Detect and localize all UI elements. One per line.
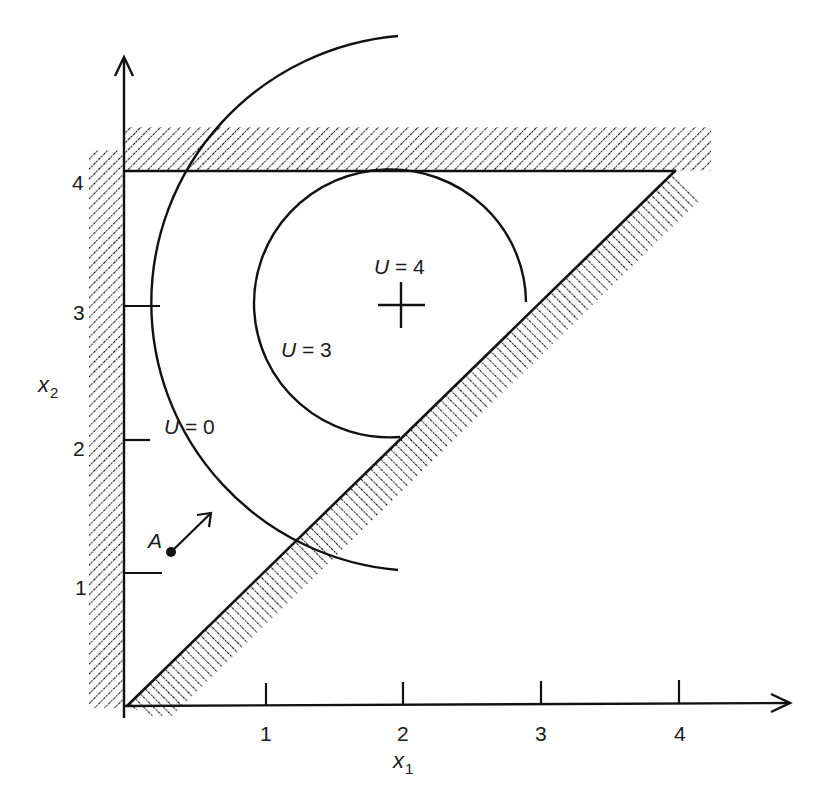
- label-u3: U = 3: [281, 339, 332, 360]
- x-tick-label-1: 1: [260, 723, 272, 744]
- x-tick-label-3: 3: [535, 723, 547, 744]
- y-tick-label-4: 4: [72, 172, 84, 193]
- y-tick-label-1: 1: [75, 577, 87, 598]
- x-axis: [124, 703, 789, 706]
- diagram-canvas: [0, 0, 823, 800]
- label-point-a: A: [148, 530, 162, 551]
- x-axis-title: x1: [393, 750, 413, 776]
- x-ticks: [266, 680, 679, 706]
- line-diagonal: [127, 170, 676, 706]
- point-a-arrow: [171, 513, 211, 552]
- x-tick-label-4: 4: [674, 723, 686, 744]
- y-tick-label-2: 2: [73, 438, 85, 459]
- constraint-diagram: 1 2 3 4 1 2 3 4 x1 x2 U = 4 U = 3 U = 0 …: [0, 0, 823, 800]
- hatch-diagonal-band: [128, 170, 700, 716]
- y-tick-label-3: 3: [73, 302, 85, 323]
- optimum-cross-icon: [378, 282, 425, 328]
- y-axis-title: x2: [38, 374, 58, 400]
- label-u0: U = 0: [164, 416, 215, 437]
- hatch-x1-nonneg: [89, 150, 123, 708]
- x-tick-label-2: 2: [397, 723, 409, 744]
- label-u4: U = 4: [374, 256, 425, 277]
